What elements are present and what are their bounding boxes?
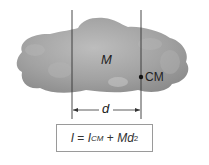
distance-label: d: [102, 101, 109, 116]
formula-exponent: 2: [134, 134, 138, 143]
formula-plus: +: [104, 131, 118, 145]
arrowhead-right-icon: [135, 108, 140, 112]
mass-label: M: [101, 52, 112, 67]
cm-dot-icon: [139, 75, 143, 79]
arrowhead-left-icon: [73, 108, 78, 112]
formula-box: I = ICM + Md2: [56, 124, 153, 152]
formula-md: Md: [117, 131, 134, 145]
cm-label: CM: [145, 70, 164, 84]
formula-icm-sub: CM: [91, 134, 103, 143]
formula-equals: =: [74, 131, 88, 145]
